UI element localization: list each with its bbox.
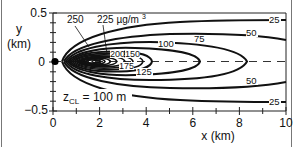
source-point bbox=[51, 58, 58, 65]
contour-label-225: 225 µg/m bbox=[97, 14, 139, 25]
contour-chart: 250 225 µg/m 3 200 150 175 125 100 75 50… bbox=[0, 0, 298, 147]
x-tick-label-2: 2 bbox=[96, 116, 103, 130]
contour-label-150: 150 bbox=[125, 49, 140, 59]
contour-label-250: 250 bbox=[67, 14, 84, 25]
x-tick-label-0: 0 bbox=[50, 116, 57, 130]
y-axis-unit: (km) bbox=[7, 37, 31, 51]
contour-label-75: 75 bbox=[194, 33, 205, 44]
y-tick-label-top: 0.5 bbox=[30, 6, 47, 20]
x-tick-label-8: 8 bbox=[236, 116, 243, 130]
contour-label-100: 100 bbox=[158, 38, 174, 49]
y-axis-label: y bbox=[16, 22, 22, 36]
x-axis-label: x (km) bbox=[201, 129, 234, 143]
y-tick-label-mid: 0 bbox=[38, 55, 45, 69]
x-tick-label-6: 6 bbox=[189, 116, 196, 130]
contour-label-50-top: 50 bbox=[246, 27, 257, 38]
contour-label-50-bottom: 50 bbox=[246, 75, 257, 86]
contour-label-175: 175 bbox=[119, 61, 134, 71]
contour-label-25-bottom: 25 bbox=[269, 96, 280, 107]
y-tick-label-bottom: −0.5 bbox=[24, 103, 48, 117]
contour-label-25-top: 25 bbox=[269, 14, 280, 25]
x-tick-label-10: 10 bbox=[279, 116, 293, 130]
x-tick-label-4: 4 bbox=[143, 116, 150, 130]
contour-label-225-sup: 3 bbox=[142, 13, 146, 20]
contour-label-200: 200 bbox=[110, 49, 125, 59]
contour-label-125: 125 bbox=[136, 66, 152, 77]
